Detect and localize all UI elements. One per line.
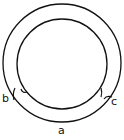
- label-b: b: [2, 93, 9, 104]
- concentric-circles-diagram: [0, 0, 124, 140]
- label-c: c: [111, 96, 117, 107]
- label-a: a: [58, 125, 65, 136]
- outer-circle: [3, 4, 121, 122]
- inner-circle: [17, 19, 107, 109]
